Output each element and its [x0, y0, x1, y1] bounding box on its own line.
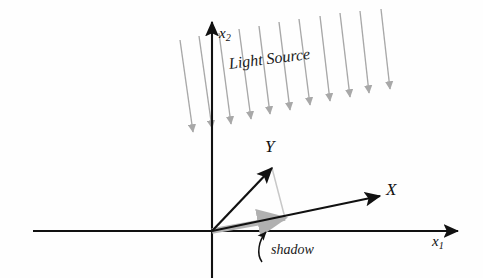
axis-label-x2-base: x [219, 25, 226, 41]
light-ray-1 [180, 40, 193, 132]
light-ray-9 [340, 13, 350, 97]
projection-line [272, 168, 285, 218]
light-ray-3 [219, 33, 231, 124]
vector-Y-label: Y [265, 138, 274, 155]
vector-X-label: X [386, 181, 396, 198]
axis-label-x2-subscript: 2 [226, 32, 231, 43]
axis-label-x2: x2 [219, 26, 231, 43]
light-ray-6 [279, 22, 290, 110]
vector-X-arrow [212, 196, 380, 231]
light-ray-5 [259, 26, 270, 114]
light-ray-11 [381, 9, 390, 89]
light-ray-2 [199, 36, 212, 128]
figure-canvas: x2 x1 Y X Light Source shadow [0, 0, 483, 278]
light-ray-4 [239, 29, 251, 119]
light-ray-10 [360, 11, 369, 93]
axis-label-x1-base: x [432, 233, 439, 249]
axis-label-x1: x1 [432, 234, 444, 251]
shadow-label-leader-line [259, 232, 266, 262]
axis-label-x1-subscript: 1 [439, 240, 444, 251]
shadow-label: shadow [271, 243, 314, 257]
light-ray-8 [320, 16, 330, 101]
diagram-svg [0, 0, 483, 278]
